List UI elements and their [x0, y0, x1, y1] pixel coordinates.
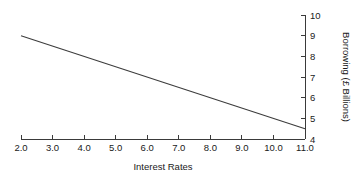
y-axis: 45678910 — [301, 10, 321, 145]
data-line-borrowing — [21, 36, 305, 129]
x-tick-label: 4.0 — [78, 142, 91, 153]
x-tick-label: 9.0 — [235, 142, 248, 153]
y-tick-label: 10 — [310, 10, 321, 21]
y-tick-label: 6 — [310, 92, 315, 103]
chart-container: 2.03.04.05.06.07.08.09.010.011.0 4567891… — [0, 0, 358, 176]
y-tick-label: 4 — [310, 134, 315, 145]
x-tick-label: 2.0 — [14, 142, 27, 153]
y-tick-label: 7 — [310, 72, 315, 83]
line-chart: 2.03.04.05.06.07.08.09.010.011.0 4567891… — [0, 0, 358, 176]
x-tick-label: 7.0 — [172, 142, 185, 153]
y-tick-label: 8 — [310, 51, 315, 62]
y-tick-label: 5 — [310, 113, 315, 124]
x-tick-label: 10.0 — [264, 142, 283, 153]
y-tick-label: 9 — [310, 30, 315, 41]
data-series-group — [21, 36, 305, 129]
y-axis-title: Borrowing (£ Billions) — [341, 32, 352, 122]
x-axis-title: Interest Rates — [133, 161, 192, 172]
x-axis: 2.03.04.05.06.07.08.09.010.011.0 — [14, 135, 314, 153]
x-tick-label: 6.0 — [141, 142, 154, 153]
x-tick-label: 8.0 — [204, 142, 217, 153]
x-tick-label: 5.0 — [109, 142, 122, 153]
x-tick-label: 3.0 — [46, 142, 59, 153]
